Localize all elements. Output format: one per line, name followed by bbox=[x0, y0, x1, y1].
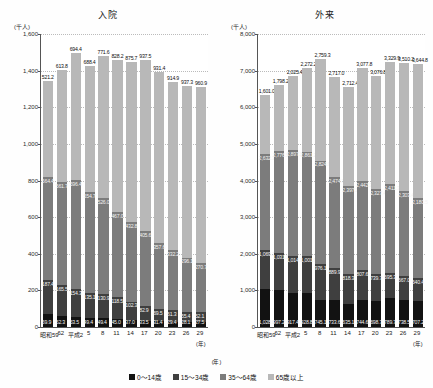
x-axis-unit-outpatient: (年) bbox=[413, 340, 423, 348]
y-tick-label: 8,000 bbox=[240, 31, 258, 37]
bar-29[interactable] bbox=[413, 64, 423, 327]
data-label: 2,861.2 bbox=[301, 152, 317, 158]
data-label: 2,180.5 bbox=[412, 199, 428, 205]
data-label: 937.5 bbox=[139, 53, 151, 59]
bar-17[interactable] bbox=[357, 68, 367, 327]
x-tick-label: 8 bbox=[313, 330, 327, 339]
data-label: 332.2 bbox=[167, 251, 179, 257]
bar-segment bbox=[329, 77, 339, 177]
data-label: 27.5 bbox=[195, 319, 204, 325]
bar-11[interactable] bbox=[112, 60, 122, 327]
bar-segment bbox=[154, 72, 164, 243]
data-label: 707.2 bbox=[412, 319, 424, 325]
data-label: 2,397.1 bbox=[342, 187, 358, 193]
x-tick-label: 平成2 bbox=[285, 330, 299, 339]
x-tick-label: 26 bbox=[396, 330, 410, 339]
x-tick-label: 11 bbox=[327, 330, 341, 339]
bar-segment bbox=[399, 191, 409, 275]
legend-item[interactable]: 65歳以上 bbox=[268, 372, 304, 382]
data-label: 3,644.8 bbox=[412, 57, 428, 63]
bar-segment bbox=[385, 62, 395, 184]
bar-23[interactable] bbox=[168, 82, 178, 327]
data-label: 53.5 bbox=[70, 319, 79, 325]
y-axis-unit-outpatient: (千人) bbox=[231, 22, 247, 31]
data-label: 130.9 bbox=[97, 295, 109, 301]
data-label: 405.6 bbox=[139, 232, 151, 238]
data-label: 695.3 bbox=[384, 274, 396, 280]
bar-segment bbox=[85, 66, 95, 192]
x-tick-label: 26 bbox=[179, 330, 193, 339]
y-tick-label: 2,000 bbox=[240, 251, 258, 257]
bar-segment bbox=[112, 212, 122, 298]
x-tick-label: 5 bbox=[299, 330, 313, 339]
data-label: 29.4 bbox=[167, 319, 176, 325]
legend-item[interactable]: 35～64歳 bbox=[220, 372, 256, 382]
x-axis-outpatient: 昭和5962平成25811141720232629 bbox=[257, 330, 425, 339]
bar-17[interactable] bbox=[140, 60, 150, 327]
x-tick-label: 昭和59 bbox=[40, 330, 54, 339]
bar-平成2[interactable] bbox=[288, 76, 298, 327]
data-label: 28.1 bbox=[181, 319, 190, 325]
bar-segment bbox=[126, 62, 136, 222]
legend-swatch-icon bbox=[220, 374, 226, 380]
data-label: 931.4 bbox=[153, 65, 165, 71]
plot-area-outpatient: 01,0002,0003,0004,0005,0006,0007,0008,00… bbox=[257, 34, 425, 328]
y-axis-unit-inpatient: (千人) bbox=[14, 22, 30, 31]
bar-平成2[interactable] bbox=[71, 53, 81, 327]
x-tick-label: 23 bbox=[382, 330, 396, 339]
bar-segment bbox=[302, 152, 312, 257]
legend-item[interactable]: 15～34歳 bbox=[173, 372, 209, 382]
bar-5[interactable] bbox=[302, 68, 312, 327]
legend-item[interactable]: 0～14歳 bbox=[129, 372, 162, 382]
x-tick-label: 17 bbox=[137, 330, 151, 339]
bar-昭和59[interactable] bbox=[43, 81, 53, 327]
data-label: 2,303.4 bbox=[398, 192, 414, 198]
bar-8[interactable] bbox=[98, 56, 108, 327]
bar-20[interactable] bbox=[154, 72, 164, 327]
bar-14[interactable] bbox=[343, 87, 353, 327]
legend-label: 35～64歳 bbox=[228, 372, 256, 382]
data-label: 2,442.3 bbox=[356, 182, 372, 188]
y-tick-label: 1,000 bbox=[23, 141, 41, 147]
bar-8[interactable] bbox=[315, 59, 325, 327]
chart-legend: 0～14歳15～34歳35～64歳65歳以上 bbox=[0, 372, 433, 382]
y-tick-label: 3,000 bbox=[240, 214, 258, 220]
bar-23[interactable] bbox=[385, 62, 395, 327]
bar-20[interactable] bbox=[371, 76, 381, 327]
bar-segment bbox=[315, 59, 325, 160]
bar-segment bbox=[71, 53, 81, 180]
bar-29[interactable] bbox=[196, 87, 206, 327]
data-label: 807.6 bbox=[356, 271, 368, 277]
bar-segment bbox=[98, 56, 108, 197]
bar-segment bbox=[357, 181, 367, 270]
bar-segment bbox=[329, 177, 339, 268]
bar-昭和59[interactable] bbox=[260, 95, 270, 327]
bar-11[interactable] bbox=[329, 77, 339, 327]
bar-segment bbox=[71, 180, 81, 289]
data-label: 45.0 bbox=[111, 319, 120, 325]
data-label: 1,601.0 bbox=[259, 88, 275, 94]
data-label: 688.4 bbox=[84, 59, 96, 65]
data-label: 960.9 bbox=[195, 80, 207, 86]
bar-segment bbox=[343, 186, 353, 274]
data-label: 635.1 bbox=[342, 319, 354, 325]
data-label: 914.9 bbox=[167, 75, 179, 81]
chart-page: 入院 (千人) 02004006008001,0001,2001,4001,60… bbox=[0, 0, 433, 388]
data-label: 52.1 bbox=[195, 313, 204, 319]
bar-14[interactable] bbox=[126, 62, 136, 327]
data-label: 561.7 bbox=[56, 183, 68, 189]
bar-26[interactable] bbox=[182, 86, 192, 327]
x-axis-inpatient: 昭和5962平成25811141720232629 bbox=[40, 330, 208, 339]
data-label: 49.4 bbox=[97, 319, 106, 325]
y-tick-label: 1,400 bbox=[23, 68, 41, 74]
data-label: 3,076.8 bbox=[370, 69, 386, 75]
data-label: 432.8 bbox=[125, 223, 137, 229]
data-label: 61.3 bbox=[167, 311, 176, 317]
data-label: 2,824.9 bbox=[314, 161, 330, 167]
x-tick-label: 17 bbox=[354, 330, 368, 339]
bar-segment bbox=[98, 198, 108, 294]
legend-label: 65歳以上 bbox=[276, 372, 304, 382]
bar-segment bbox=[315, 161, 325, 264]
bar-62[interactable] bbox=[274, 85, 284, 327]
x-tick-label: 11 bbox=[110, 330, 124, 339]
